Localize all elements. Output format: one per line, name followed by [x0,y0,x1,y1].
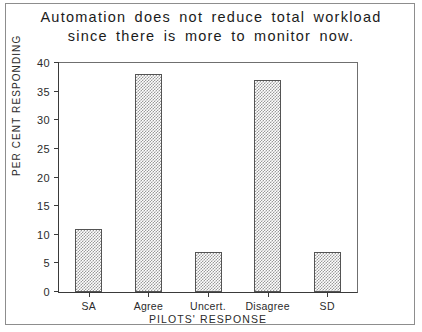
x-tick-mark [268,292,269,297]
bar [75,229,102,292]
bar [135,74,162,292]
bar [314,252,341,292]
y-tick-label: 30 [37,114,50,126]
x-tick-label: SA [81,300,96,312]
y-tick-label: 40 [37,57,50,69]
chart-figure: Automation does not reduce total workloa… [0,0,422,332]
x-tick-mark [327,292,328,297]
x-axis-title: PILOTS' RESPONSE [58,313,358,325]
bar [254,80,281,292]
x-tick-mark [208,292,209,297]
y-axis-title: PER CENT RESPONDING [11,35,22,176]
y-tick-mark [54,262,59,263]
plot-area: 0510152025303540 SAAgreeUncert.DisagreeS… [58,62,358,293]
y-tick-mark [54,177,59,178]
y-tick-mark [54,148,59,149]
y-tick-label: 5 [43,257,50,269]
y-tick-mark [54,91,59,92]
x-tick-label: Disagree [245,300,289,312]
y-tick-label: 25 [37,143,50,155]
x-tick-label: SD [320,300,335,312]
y-tick-mark [54,291,59,292]
x-tick-label: Agree [134,300,164,312]
x-tick-label: Uncert. [190,300,226,312]
bar [195,252,222,292]
y-tick-label: 20 [37,172,50,184]
y-tick-label: 15 [37,200,50,212]
y-tick-mark [54,119,59,120]
y-tick-mark [54,205,59,206]
x-tick-mark [148,292,149,297]
y-tick-label: 35 [37,86,50,98]
y-tick-mark [54,234,59,235]
chart-title: Automation does not reduce total workloa… [14,8,408,46]
y-tick-mark [54,62,59,63]
y-tick-label: 0 [43,286,50,298]
x-tick-mark [89,292,90,297]
y-tick-label: 10 [37,229,50,241]
